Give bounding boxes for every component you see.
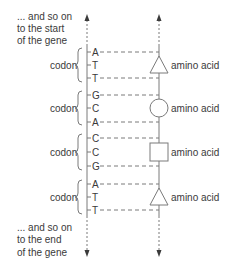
codon-label: codon [50, 147, 77, 158]
bottom-note-line-2: to the end [17, 234, 61, 245]
amino-acid-label: amino acid [171, 147, 219, 158]
triangle-amino-acid-icon [150, 56, 168, 73]
codon-group-2: codon G C A amino acid [50, 90, 219, 128]
bottom-note: ... and so on to the end of the gene [17, 222, 72, 258]
codon-brace [75, 134, 82, 170]
top-note: ... and so on to the start of the gene [17, 11, 72, 46]
base-letter: A [92, 47, 99, 58]
codon-label: codon [50, 60, 77, 71]
base-letter: C [92, 147, 99, 158]
base-letter: G [92, 161, 100, 172]
base-letter: A [92, 117, 99, 128]
codon-group-1: codon A T T amino acid [50, 47, 219, 84]
protein-up-arrow-icon [157, 14, 162, 21]
bottom-note-line-3: of the gene [17, 247, 67, 258]
base-letter: T [92, 192, 98, 203]
amino-acid-label: amino acid [171, 60, 219, 71]
square-amino-acid-icon [150, 143, 168, 161]
codon-label: codon [50, 103, 77, 114]
base-letter: C [92, 133, 99, 144]
protein-down-arrow-icon [157, 250, 162, 257]
codon-brace [75, 91, 82, 125]
base-letter: T [92, 205, 98, 216]
codon-brace [75, 180, 82, 214]
gene-protein-colinearity-diagram: ... and so on to the start of the gene .… [0, 0, 230, 272]
dna-down-arrow-icon [85, 250, 90, 257]
base-letter: C [92, 103, 99, 114]
base-letter: A [92, 179, 99, 190]
base-letter: G [92, 90, 100, 101]
triangle-amino-acid-icon [150, 188, 168, 205]
bottom-note-line-1: ... and so on [17, 222, 72, 233]
base-letter: T [92, 60, 98, 71]
codon-group-4: codon A T T amino acid [50, 179, 219, 216]
circle-amino-acid-icon [150, 99, 168, 117]
codon-label: codon [50, 192, 77, 203]
top-note-line-3: of the gene [17, 35, 67, 46]
base-letter: T [92, 73, 98, 84]
codon-brace [75, 48, 82, 82]
codon-group-3: codon C C G amino acid [50, 133, 219, 172]
top-note-line-1: ... and so on [17, 11, 72, 22]
amino-acid-label: amino acid [171, 192, 219, 203]
dna-up-arrow-icon [85, 14, 90, 21]
amino-acid-label: amino acid [171, 103, 219, 114]
top-note-line-2: to the start [17, 23, 64, 34]
